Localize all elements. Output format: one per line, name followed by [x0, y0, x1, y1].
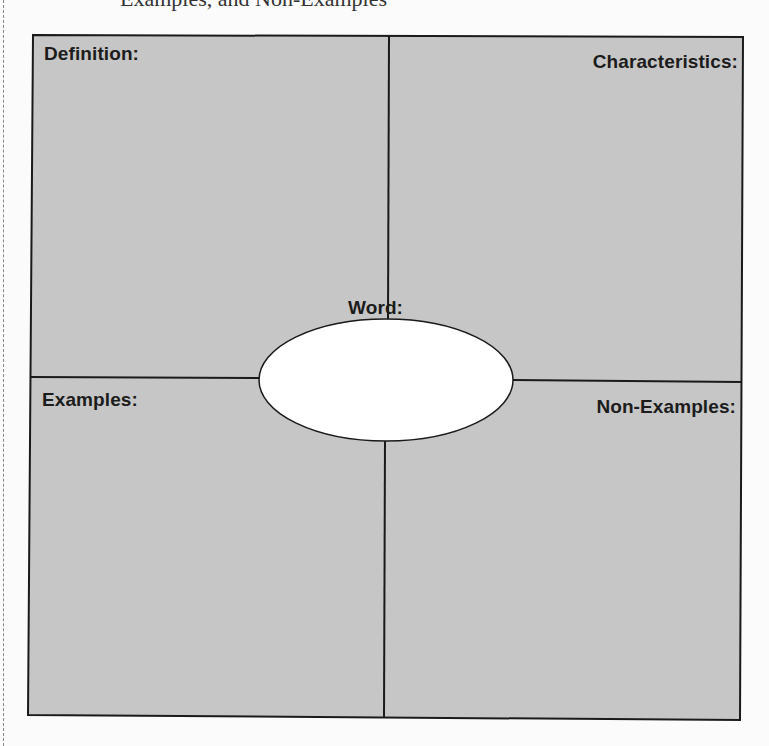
definition-label: Definition:: [44, 43, 139, 65]
non-examples-label: Non-Examples:: [596, 396, 736, 418]
examples-region[interactable]: [29, 379, 384, 715]
vertical-divider-bottom: [384, 440, 385, 718]
characteristics-region[interactable]: [390, 37, 742, 379]
non-examples-region[interactable]: [386, 383, 740, 719]
examples-label: Examples:: [42, 389, 138, 411]
characteristics-label: Characteristics:: [593, 51, 738, 73]
word-label: Word:: [348, 297, 403, 319]
vertical-divider-top: [388, 36, 389, 320]
horizontal-divider-left: [31, 377, 260, 378]
definition-region[interactable]: [33, 36, 388, 376]
